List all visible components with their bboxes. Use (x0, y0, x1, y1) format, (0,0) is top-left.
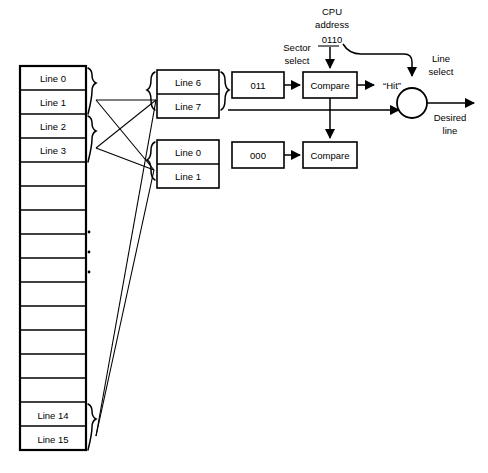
cpu-title-line1: CPU (322, 6, 342, 17)
main-memory-cell-2-label: Line 2 (40, 121, 66, 132)
compare-lower-label: Compare (310, 150, 349, 161)
main-memory-ellipsis (88, 231, 91, 274)
sector-mapping-diagram: Line 0 Line 1 Line 2 Line 3 Line 14 Line… (0, 0, 488, 473)
line-select-wire (343, 44, 412, 76)
cpu-address-value: 0110 (322, 34, 342, 45)
sector-lower-line-0-label: Line 0 (175, 147, 201, 158)
main-memory-cell-0-label: Line 0 (40, 73, 66, 84)
sector-upper-line-0-label: Line 6 (175, 77, 201, 88)
main-memory-cell-15-label: Line 15 (37, 434, 68, 445)
hit-output: “Hit” (357, 80, 401, 91)
desired-line-label-line2: line (443, 125, 458, 136)
main-memory-cell-3-label: Line 3 (40, 145, 66, 156)
compare-lower: Compare (303, 142, 357, 168)
sector-upper-line-1-label: Line 7 (175, 101, 201, 112)
main-memory-column: Line 0 Line 1 Line 2 Line 3 Line 14 Line… (20, 66, 86, 450)
sector-select-label-line2: select (285, 55, 310, 66)
tag-box-lower: 000 (232, 142, 300, 168)
line-select-label-line1: Line (432, 53, 450, 64)
main-memory-braces (88, 68, 96, 450)
hit-label: “Hit” (383, 80, 401, 91)
compare-upper: Compare (303, 72, 357, 98)
line-selector-circle (397, 88, 427, 118)
diagram-canvas: Line 0 Line 1 Line 2 Line 3 Line 14 Line… (0, 0, 488, 473)
line-select-label-line2: select (429, 66, 454, 77)
tag-box-upper: 011 (232, 72, 300, 98)
main-memory-dividers (20, 90, 86, 426)
desired-line-label-line1: Desired (434, 112, 467, 123)
sector-select-label-line1: Sector (283, 42, 310, 53)
mapping-connection-lines (96, 100, 156, 436)
sector-upper: Line 6 Line 7 (147, 70, 229, 118)
main-memory-cell-1-label: Line 1 (40, 97, 66, 108)
sector-lower-line-1-label: Line 1 (175, 171, 201, 182)
compare-upper-label: Compare (310, 80, 349, 91)
cpu-title-line2: address (315, 19, 349, 30)
sector-lower: Line 0 Line 1 (147, 140, 219, 188)
main-memory-cell-14-label: Line 14 (37, 410, 68, 421)
tag-upper-value: 011 (250, 80, 265, 91)
tag-lower-value: 000 (250, 150, 266, 161)
